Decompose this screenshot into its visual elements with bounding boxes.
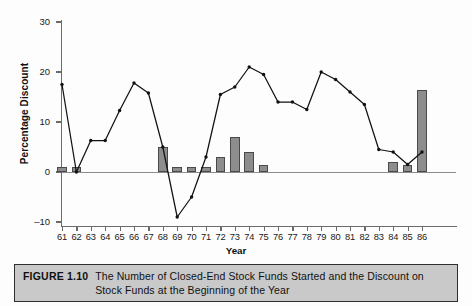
discount-point-67 <box>147 91 150 94</box>
line-series <box>0 0 472 250</box>
discount-polyline <box>62 67 422 217</box>
discount-point-83 <box>377 148 380 151</box>
figure-caption-text: The Number of Closed-End Stock Funds Sta… <box>95 270 449 297</box>
figure-caption-label: FIGURE 1.10 <box>23 270 95 282</box>
discount-point-72 <box>219 93 222 96</box>
discount-point-85 <box>406 163 409 166</box>
discount-point-80 <box>334 78 337 81</box>
discount-point-81 <box>348 90 351 93</box>
discount-point-79 <box>320 70 323 73</box>
discount-point-62 <box>75 170 78 173</box>
discount-point-76 <box>276 100 279 103</box>
discount-point-68 <box>161 145 164 148</box>
discount-point-71 <box>204 155 207 158</box>
discount-point-84 <box>392 150 395 153</box>
y-axis-title: Percentage Discount <box>19 44 30 184</box>
discount-point-78 <box>305 108 308 111</box>
discount-point-66 <box>132 81 135 84</box>
chart-plot-area: 3020100–10 61626364656667686970717273747… <box>0 0 472 250</box>
discount-point-69 <box>176 215 179 218</box>
discount-point-65 <box>118 109 121 112</box>
discount-point-markers <box>60 65 423 218</box>
discount-point-64 <box>104 139 107 142</box>
discount-point-86 <box>420 150 423 153</box>
figure-container: 3020100–10 61626364656667686970717273747… <box>0 0 472 306</box>
discount-point-73 <box>233 85 236 88</box>
figure-caption: FIGURE 1.10 The Number of Closed-End Sto… <box>14 264 458 302</box>
discount-point-70 <box>190 195 193 198</box>
discount-point-63 <box>89 139 92 142</box>
discount-point-82 <box>363 103 366 106</box>
x-axis-title: Year <box>0 245 472 256</box>
discount-point-74 <box>248 65 251 68</box>
discount-point-61 <box>60 83 63 86</box>
discount-point-77 <box>291 100 294 103</box>
discount-point-75 <box>262 73 265 76</box>
